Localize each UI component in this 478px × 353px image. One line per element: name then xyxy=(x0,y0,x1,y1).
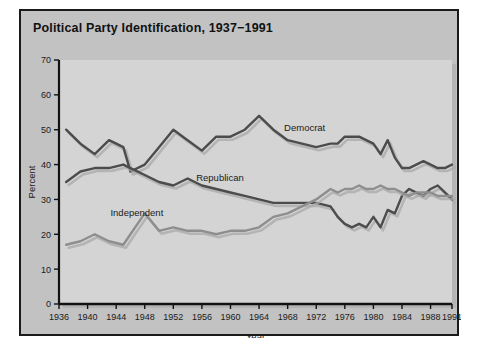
x-axis-title: Year xyxy=(246,331,265,338)
y-tick-label: 20 xyxy=(41,230,51,240)
x-tick-label: 1964 xyxy=(249,312,269,322)
y-tick-label: 10 xyxy=(41,265,51,275)
series-label-democrat: Democrat xyxy=(284,122,326,133)
chart-card: Political Party Identification, 1937−199… xyxy=(19,9,459,336)
x-tick-label: 1944 xyxy=(106,312,126,322)
x-tick-label: 1976 xyxy=(335,312,355,322)
y-axis-title: Percent xyxy=(26,165,37,198)
x-tick-label: 1960 xyxy=(220,312,240,322)
y-tick-label: 0 xyxy=(46,299,51,309)
x-tick-label: 1936 xyxy=(49,312,69,322)
y-tick-label: 30 xyxy=(41,195,51,205)
x-tick-label: 1952 xyxy=(163,312,183,322)
y-tick-label: 50 xyxy=(41,125,51,135)
series-label-republican: Republican xyxy=(196,172,244,183)
y-tick-label: 60 xyxy=(41,90,51,100)
line-chart-svg: 0102030405060701936194019441948195219561… xyxy=(21,11,461,338)
y-tick-label: 70 xyxy=(41,55,51,65)
y-tick-label: 40 xyxy=(41,160,51,170)
x-tick-label: 1940 xyxy=(78,312,98,322)
series-label-independent: Independent xyxy=(110,207,163,218)
x-tick-label: 1984 xyxy=(392,312,412,322)
x-tick-label: 1972 xyxy=(306,312,326,322)
chart-plot-area: 0102030405060701936194019441948195219561… xyxy=(21,11,461,338)
x-tick-label: 1968 xyxy=(278,312,298,322)
x-tick-label: 1980 xyxy=(363,312,383,322)
x-tick-label: 1988 xyxy=(421,312,441,322)
plot-background xyxy=(59,60,452,304)
x-tick-label: 1991 xyxy=(442,312,461,322)
x-tick-label: 1948 xyxy=(135,312,155,322)
x-tick-label: 1956 xyxy=(192,312,212,322)
